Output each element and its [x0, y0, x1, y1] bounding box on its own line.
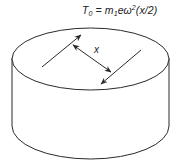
- formula-e-omega: eω: [118, 4, 132, 16]
- formula-equals-m: = m: [93, 4, 114, 16]
- couple-formula: T0 = m1eω2(x/2): [82, 4, 157, 17]
- cylinder-top-face: [12, 28, 169, 90]
- cylinder-bottom-arc: [12, 126, 169, 159]
- formula-rest: (x/2): [136, 4, 158, 16]
- cylinder-drawing: [0, 0, 181, 168]
- dimension-label-x: x: [94, 44, 99, 55]
